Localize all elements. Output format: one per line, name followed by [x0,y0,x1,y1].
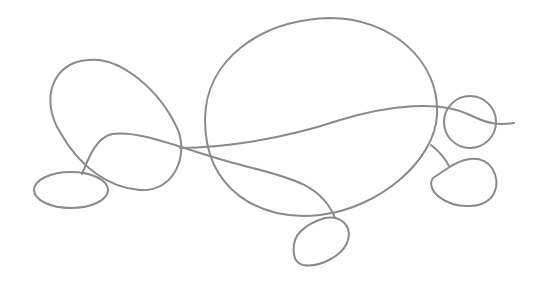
left-large-loop [50,60,181,190]
central-body-oval [205,18,437,216]
long-wavy-line [180,106,514,148]
line-drawing [0,0,539,286]
right-foot-blob [431,159,496,206]
left-foot-oval [34,172,108,208]
right-leg-connector [431,145,449,166]
bottom-foot-oval [294,217,349,265]
